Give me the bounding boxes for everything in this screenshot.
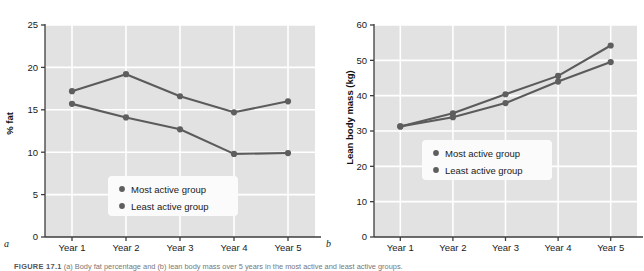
data-point-marker bbox=[555, 78, 561, 84]
legend-marker-icon bbox=[433, 150, 439, 156]
legend-entry-label: Most active group bbox=[445, 148, 520, 159]
y-axis-tick-label: 40 bbox=[356, 90, 367, 101]
data-point-marker bbox=[69, 101, 75, 107]
data-point-marker bbox=[502, 100, 508, 106]
chart-legend: Most active groupLeast active group bbox=[422, 140, 552, 180]
data-point-marker bbox=[608, 42, 614, 48]
y-axis-tick-label: 10 bbox=[356, 196, 367, 207]
data-point-marker bbox=[555, 73, 561, 79]
data-point-marker bbox=[502, 91, 508, 97]
data-point-marker bbox=[231, 109, 237, 115]
legend-marker-icon bbox=[119, 186, 125, 192]
figure-caption-body: (a) Body fat percentage and (b) lean bod… bbox=[62, 262, 403, 271]
y-axis-tick-label: 50 bbox=[356, 55, 367, 66]
data-point-marker bbox=[285, 98, 291, 104]
data-point-marker bbox=[123, 114, 129, 120]
chart-legend: Most active groupLeast active group bbox=[108, 176, 238, 216]
y-axis-tick-label: 30 bbox=[356, 125, 367, 136]
legend-marker-icon bbox=[119, 203, 125, 209]
y-axis-tick-label: 0 bbox=[362, 231, 367, 242]
data-point-marker bbox=[608, 59, 614, 65]
line-chart-b: 0102030405060Year 1Year 2Year 3Year 4Yea… bbox=[322, 0, 644, 271]
y-axis-tick-label: 20 bbox=[27, 62, 38, 73]
legend-entry-label: Least active group bbox=[131, 201, 209, 212]
data-point-marker bbox=[285, 150, 291, 156]
x-axis-tick-label: Year 3 bbox=[492, 242, 519, 253]
figure-caption-number: FIGURE 17.1 bbox=[14, 262, 62, 271]
data-point-marker bbox=[123, 71, 129, 77]
x-axis-tick-label: Year 5 bbox=[274, 242, 301, 253]
figure-container: % fat a 0510152025Year 1Year 2Year 3Year… bbox=[0, 0, 644, 271]
chart-panel-a: % fat a 0510152025Year 1Year 2Year 3Year… bbox=[0, 0, 322, 271]
x-axis-tick-label: Year 4 bbox=[545, 242, 572, 253]
y-axis-tick-label: 25 bbox=[27, 19, 38, 30]
chart-panel-b: Lean body mass (kg) b 0102030405060Year … bbox=[322, 0, 644, 271]
y-axis-tick-label: 10 bbox=[27, 147, 38, 158]
y-axis-tick-label: 20 bbox=[356, 161, 367, 172]
x-axis-tick-label: Year 4 bbox=[220, 242, 247, 253]
data-point-marker bbox=[397, 123, 403, 129]
data-point-marker bbox=[69, 88, 75, 94]
y-axis-tick-label: 0 bbox=[33, 231, 38, 242]
x-axis-tick-label: Year 3 bbox=[166, 242, 193, 253]
y-axis-tick-label: 5 bbox=[33, 189, 38, 200]
x-axis-tick-label: Year 1 bbox=[58, 242, 85, 253]
data-point-marker bbox=[231, 151, 237, 157]
x-axis-tick-label: Year 5 bbox=[597, 242, 624, 253]
x-axis-tick-label: Year 1 bbox=[387, 242, 414, 253]
y-axis-tick-label: 60 bbox=[356, 19, 367, 30]
legend-entry-label: Least active group bbox=[445, 165, 523, 176]
figure-caption: FIGURE 17.1 (a) Body fat percentage and … bbox=[14, 262, 630, 271]
data-point-marker bbox=[177, 126, 183, 132]
line-chart-a: 0510152025Year 1Year 2Year 3Year 4Year 5… bbox=[0, 0, 322, 271]
legend-entry-label: Most active group bbox=[131, 184, 206, 195]
legend-marker-icon bbox=[433, 167, 439, 173]
y-axis-tick-label: 15 bbox=[27, 104, 38, 115]
x-axis-tick-label: Year 2 bbox=[112, 242, 139, 253]
x-axis-tick-label: Year 2 bbox=[439, 242, 466, 253]
data-point-marker bbox=[450, 114, 456, 120]
data-point-marker bbox=[177, 93, 183, 99]
